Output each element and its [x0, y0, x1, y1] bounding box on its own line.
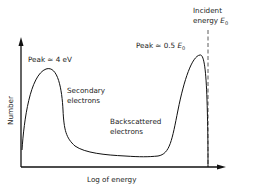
incident-label-line1: Incident: [193, 6, 222, 15]
energy-distribution-diagram: Peak ≈ 4 eV Secondary electrons Backscat…: [0, 0, 254, 190]
left-peak-label: Peak ≈ 4 eV: [28, 55, 72, 64]
secondary-label-line1: Secondary: [67, 86, 106, 95]
backscattered-label-line2: electrons: [110, 127, 143, 136]
x-axis-arrow-icon: [217, 165, 226, 170]
secondary-label-line2: electrons: [67, 96, 100, 105]
y-axis-arrow-icon: [19, 37, 24, 46]
y-axis-label: Number: [6, 96, 15, 125]
incident-label-line2: energy E0: [193, 16, 228, 26]
right-peak-label: Peak ≈ 0.5 E0: [136, 41, 185, 51]
backscattered-label-line1: Backscattered: [110, 117, 161, 126]
x-axis-label: Log of energy: [87, 175, 137, 184]
energy-curve: [22, 55, 208, 167]
